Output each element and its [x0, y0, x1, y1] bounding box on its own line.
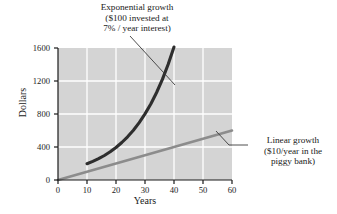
annotation-linear-growth: Linear growth ($10/year in the piggy ban…	[250, 135, 336, 167]
annotation-exponential-line2: ($100 invested at	[71, 13, 203, 24]
y-tick-label-1600: 1600	[24, 43, 50, 53]
x-axis-ticks	[58, 180, 232, 184]
x-tick-label-50: 50	[193, 185, 213, 195]
x-tick-label-10: 10	[77, 185, 97, 195]
x-axis-title: Years	[100, 195, 190, 206]
figure-container: Exponential growth ($100 invested at 7% …	[0, 0, 337, 214]
y-tick-label-800: 800	[24, 109, 50, 119]
x-tick-label-30: 30	[135, 185, 155, 195]
y-axis-title: Dollars	[17, 73, 28, 133]
annotation-linear-line2: ($10/year in the	[250, 146, 336, 157]
y-tick-label-400: 400	[24, 142, 50, 152]
x-tick-label-20: 20	[106, 185, 126, 195]
y-tick-label-0: 0	[24, 175, 50, 185]
annotation-linear-line3: piggy bank)	[250, 156, 336, 167]
x-tick-label-40: 40	[164, 185, 184, 195]
annotation-exponential-line1: Exponential growth	[71, 2, 203, 13]
annotation-linear-line1: Linear growth	[250, 135, 336, 146]
y-tick-label-1200: 1200	[24, 76, 50, 86]
annotation-exponential-line3: 7% / year interest)	[71, 23, 203, 34]
annotation-exponential-growth: Exponential growth ($100 invested at 7% …	[71, 2, 203, 34]
x-tick-label-0: 0	[48, 185, 68, 195]
x-tick-label-60: 60	[222, 185, 242, 195]
